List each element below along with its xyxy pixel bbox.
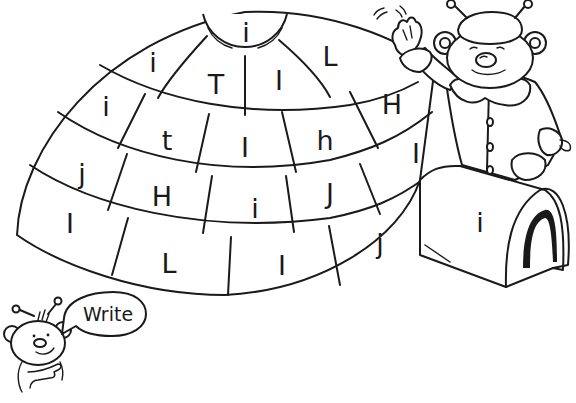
bear-nose (476, 53, 496, 67)
brick-letter: I (278, 250, 286, 281)
tunnel-letter: i (476, 207, 484, 238)
bear-pointing (4, 298, 71, 393)
brick-letter: I (275, 65, 283, 96)
coat-button (487, 143, 493, 151)
speech-bubble-text: Write (83, 303, 133, 325)
cap-letter: i (242, 17, 250, 48)
igloo-tunnel (420, 166, 569, 287)
wave-motion-mark (396, 10, 402, 17)
wave-motion-mark (400, 6, 406, 14)
brick-letter: I (412, 138, 420, 169)
igloo (17, 12, 435, 295)
fur-cuff-lower (538, 128, 562, 155)
bear-ear-inner-left (440, 38, 450, 48)
small-bear-antenna-tip-left (13, 306, 20, 313)
worksheet-scene: i i T I L i t I h H j H i J I I L I j i (0, 0, 576, 403)
brick-letter: i (251, 193, 259, 224)
brick-letter: h (316, 125, 333, 156)
brick-letter: j (375, 228, 384, 259)
small-bear-pointing-arm (28, 364, 61, 388)
igloo-dome-outline (17, 12, 435, 295)
coat-button (487, 118, 493, 126)
small-bear-nose (34, 339, 46, 347)
coat-button (487, 166, 493, 174)
brick-letter: L (322, 41, 337, 72)
small-bear-antenna-right (48, 304, 56, 314)
bear-fur-hat (458, 12, 522, 44)
wave-motion-mark (377, 12, 387, 19)
brick-letter: J (324, 178, 334, 209)
bear-antenna-tip-left (447, 0, 455, 8)
brick-letter: i (102, 91, 110, 122)
small-bear-antenna-tip-right (55, 298, 62, 305)
brick-letter: j (77, 158, 86, 189)
fur-hem (512, 153, 546, 180)
brick-letter: H (382, 89, 402, 120)
bear-ear-inner-right (530, 38, 540, 48)
tunnel-body (420, 166, 563, 287)
brick-letter: H (152, 181, 172, 212)
brick-letter: I (66, 208, 74, 239)
small-bear-eye (47, 334, 50, 337)
small-bear-antenna-left (20, 310, 34, 316)
brick-letter: t (162, 125, 173, 156)
speech-bubble: Write (62, 292, 146, 336)
bear-antenna-right (515, 6, 525, 18)
small-bear-eye (33, 335, 36, 338)
brick-letter: I (241, 132, 249, 163)
brick-letter: L (161, 248, 176, 279)
bear-antenna-tip-right (524, 0, 532, 8)
brick-letter: T (207, 69, 225, 100)
small-bear-body (18, 362, 22, 392)
bear-antenna-left (455, 6, 467, 18)
brick-letter: i (149, 47, 157, 78)
